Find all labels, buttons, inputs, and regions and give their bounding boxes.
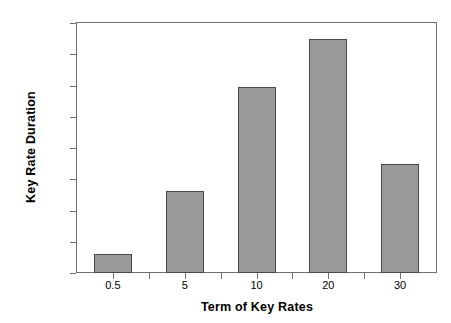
y-tick-mark xyxy=(70,179,76,180)
x-axis-title: Term of Key Rates xyxy=(76,300,438,314)
x-tick-label: 30 xyxy=(370,280,430,291)
x-tick-mark xyxy=(292,273,293,279)
y-tick-mark xyxy=(70,54,76,55)
x-tick-label: 0.5 xyxy=(83,280,143,291)
y-tick-mark xyxy=(70,148,76,149)
x-tick-label: 5 xyxy=(155,280,215,291)
x-tick-label: 20 xyxy=(298,280,358,291)
y-tick-mark xyxy=(70,117,76,118)
y-tick-mark xyxy=(70,86,76,87)
y-axis-title: Key Rate Duration xyxy=(24,52,38,242)
x-tick-mark xyxy=(149,273,150,279)
y-tick-mark xyxy=(70,211,76,212)
bar-10 xyxy=(238,87,276,273)
x-tick-mark xyxy=(221,273,222,279)
bar-chart-figure: Key Rate Duration 00.511.522.533.54 0.55… xyxy=(0,0,451,323)
y-tick-mark xyxy=(70,23,76,24)
bar-30 xyxy=(381,164,419,273)
x-tick-mark xyxy=(364,273,365,279)
bar-0.5 xyxy=(94,254,132,273)
y-tick-mark xyxy=(70,273,76,274)
y-tick-mark xyxy=(70,242,76,243)
bar-20 xyxy=(309,39,347,273)
bars-container xyxy=(77,23,436,273)
bar-5 xyxy=(166,191,204,274)
x-tick-label: 10 xyxy=(227,280,287,291)
